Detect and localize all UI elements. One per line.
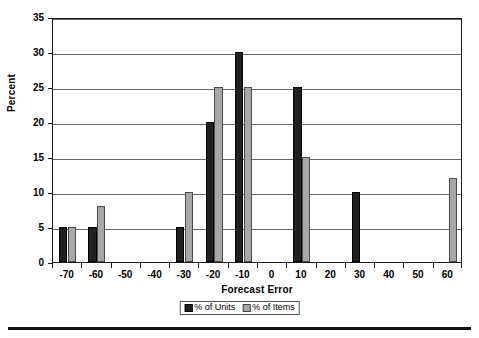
y-axis: 05101520253035 xyxy=(18,18,52,263)
y-tick-label: 0 xyxy=(18,258,44,268)
x-tick-mark xyxy=(286,263,287,268)
x-tick-mark xyxy=(461,263,462,268)
y-tick-label: 15 xyxy=(18,153,44,163)
x-tick-mark xyxy=(111,263,112,268)
y-tick-label: 30 xyxy=(18,48,44,58)
legend-swatch-units-icon xyxy=(184,304,192,312)
x-axis: -70-60-50-40-30-20-100102030405060 xyxy=(52,263,462,285)
x-tick-mark xyxy=(228,263,229,268)
x-tick-mark xyxy=(52,263,53,268)
x-tick-mark xyxy=(140,263,141,268)
x-tick-mark xyxy=(81,263,82,268)
legend-label-units: % of Units xyxy=(194,303,235,312)
y-tick-label: 5 xyxy=(18,223,44,233)
x-tick-mark xyxy=(433,263,434,268)
bottom-divider xyxy=(8,327,471,330)
y-tick-label: 20 xyxy=(18,118,44,128)
forecast-error-bar-chart: Percent 05101520253035 -70-60-50-40-30-2… xyxy=(0,0,479,338)
bar-series-container xyxy=(53,19,461,262)
x-tick-mark xyxy=(198,263,199,268)
y-axis-title: Percent xyxy=(6,48,17,138)
x-tick-label: 60 xyxy=(427,269,467,281)
x-tick-mark xyxy=(403,263,404,268)
x-tick-mark xyxy=(169,263,170,268)
plot-area xyxy=(52,18,462,263)
chart-legend: % of Units % of Items xyxy=(179,301,300,315)
legend-swatch-items-icon xyxy=(242,304,250,312)
y-tick-label: 25 xyxy=(18,83,44,93)
x-tick-mark xyxy=(257,263,258,268)
y-tick-label: 10 xyxy=(18,188,44,198)
bar-items-60 xyxy=(449,178,457,262)
x-axis-title: Forecast Error xyxy=(52,284,462,295)
y-tick-label: 35 xyxy=(18,13,44,23)
legend-entry-items: % of Items xyxy=(242,303,295,312)
x-tick-mark xyxy=(374,263,375,268)
legend-label-items: % of Items xyxy=(252,303,295,312)
x-tick-mark xyxy=(345,263,346,268)
bar-group xyxy=(53,19,463,262)
legend-entry-units: % of Units xyxy=(184,303,235,312)
x-tick-mark xyxy=(316,263,317,268)
